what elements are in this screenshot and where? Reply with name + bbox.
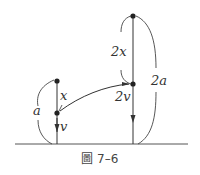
caption-number: 7–6	[97, 152, 118, 166]
diagram-canvas: a x v 2x 2v 2a 圖 7–6	[0, 0, 200, 175]
caption-prefix: 圖	[81, 152, 93, 166]
label-2v: 2v	[114, 89, 131, 104]
label-a: a	[33, 103, 41, 118]
left-middle-dot	[54, 110, 59, 115]
left-rod	[38, 78, 60, 144]
figure-caption: 圖 7–6	[81, 152, 118, 166]
label-v: v	[60, 119, 68, 134]
label-2a: 2a	[150, 73, 167, 88]
right-middle-dot	[130, 81, 135, 86]
right-top-dot	[130, 13, 135, 18]
label-2x: 2x	[110, 44, 127, 59]
label-x: x	[60, 88, 68, 103]
left-top-dot	[54, 78, 59, 83]
